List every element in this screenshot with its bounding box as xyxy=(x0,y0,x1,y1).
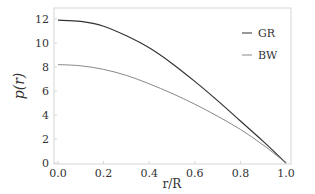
x-tick-label: 0.8 xyxy=(232,167,250,180)
y-tick-label: 4 xyxy=(42,109,49,122)
plot-frame xyxy=(54,8,291,164)
y-tick-label: 12 xyxy=(35,13,49,26)
x-tick-label: 1.0 xyxy=(277,167,295,180)
y-tick-label: 2 xyxy=(42,133,49,146)
y-tick-label: 0 xyxy=(42,157,49,170)
x-tick-label: 0.4 xyxy=(140,167,158,180)
series-line-bw xyxy=(58,65,286,163)
line-chart: 024681012 0.00.20.40.60.81.0 r/R p(r) GR… xyxy=(0,0,315,194)
series-line-gr xyxy=(58,20,286,163)
legend: GRBW xyxy=(242,27,278,62)
x-axis-label: r/R xyxy=(163,177,183,191)
y-tick-label: 10 xyxy=(35,37,49,50)
legend-label: GR xyxy=(258,27,276,40)
y-tick-label: 6 xyxy=(42,85,49,98)
legend-label: BW xyxy=(258,49,278,62)
x-tick-label: 0.2 xyxy=(95,167,113,180)
x-tick-label: 0.0 xyxy=(49,167,67,180)
x-tick-label: 0.6 xyxy=(186,167,204,180)
y-axis-label: p(r) xyxy=(11,73,27,100)
data-lines xyxy=(58,20,286,163)
y-tick-label: 8 xyxy=(42,61,49,74)
